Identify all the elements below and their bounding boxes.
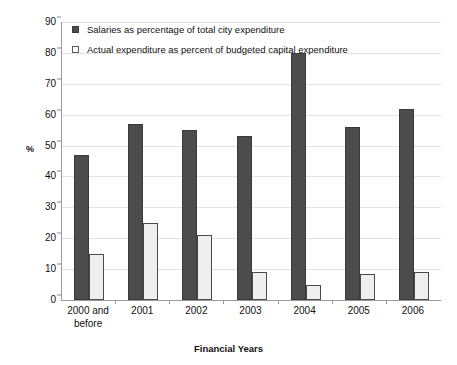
bar: [360, 274, 375, 300]
x-axis-title: Financial Years: [0, 343, 457, 354]
bar: [74, 155, 89, 300]
bar: [345, 127, 360, 300]
bar: [399, 109, 414, 301]
y-tick-label: 70: [28, 79, 56, 89]
legend-swatch-open-white-square-icon: [72, 46, 79, 53]
y-tick-label: 20: [28, 233, 56, 243]
x-axis-tick-labels: 2000 andbefore200120022003200420052006: [61, 304, 440, 338]
bar-group: [345, 22, 375, 300]
y-tick-label: 80: [28, 48, 56, 58]
legend-item-actual-expenditure: Actual expenditure as percent of budgete…: [72, 44, 348, 55]
legend-item-salaries: Salaries as percentage of total city exp…: [72, 24, 348, 35]
x-tick-label: 2003: [223, 304, 277, 317]
bar: [291, 53, 306, 300]
legend-label-actual-expenditure: Actual expenditure as percent of budgete…: [87, 44, 348, 55]
chart-legend: Salaries as percentage of total city exp…: [72, 24, 348, 64]
bar: [306, 285, 321, 300]
y-tick-label: 30: [28, 202, 56, 212]
x-tick-label: 2004: [278, 304, 332, 317]
bar: [182, 130, 197, 300]
bar-group: [399, 22, 429, 300]
bar: [143, 223, 158, 300]
bar: [89, 254, 104, 300]
y-tick-label: 0: [28, 295, 56, 305]
x-tick-label: 2006: [386, 304, 440, 317]
x-tick-label: 2005: [332, 304, 386, 317]
y-tick-label: 40: [28, 171, 56, 181]
legend-swatch-filled-dark-square-icon: [72, 26, 79, 33]
bar-chart: % 9080706050403020100 Salaries as percen…: [0, 0, 457, 365]
y-tick-label: 60: [28, 110, 56, 120]
y-tick-mark: [57, 17, 61, 18]
y-tick-label: 10: [28, 264, 56, 274]
x-tick-label: 2001: [115, 304, 169, 317]
bar: [414, 272, 429, 300]
legend-label-salaries: Salaries as percentage of total city exp…: [87, 24, 285, 35]
bar: [252, 272, 267, 300]
bar: [128, 124, 143, 300]
x-tick-label: 2002: [169, 304, 223, 317]
y-axis-tick-labels: 9080706050403020100: [28, 14, 56, 306]
bar: [197, 235, 212, 300]
y-tick-label: 50: [28, 141, 56, 151]
x-tick-label: 2000 andbefore: [61, 304, 115, 330]
bar: [237, 136, 252, 300]
y-tick-label: 90: [28, 17, 56, 27]
